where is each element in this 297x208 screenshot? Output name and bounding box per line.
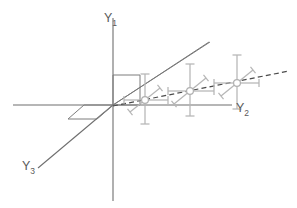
depth-parallelogram bbox=[68, 105, 113, 119]
reference-shapes-group bbox=[68, 75, 140, 119]
rays-group bbox=[113, 42, 210, 105]
figure-canvas: Y1Y2Y3 bbox=[0, 0, 297, 208]
axis-label-y1: Y1 bbox=[104, 11, 117, 28]
axis-label-y2: Y2 bbox=[236, 101, 249, 118]
axis-label-subscript-y2: 2 bbox=[244, 108, 249, 118]
data-point-cluster bbox=[124, 74, 168, 124]
data-point-cluster bbox=[168, 64, 214, 116]
data-point-marker[interactable] bbox=[142, 97, 149, 104]
data-point-marker[interactable] bbox=[234, 80, 241, 87]
axis-label-subscript-y1: 1 bbox=[112, 18, 117, 28]
axis-labels-group: Y1Y2Y3 bbox=[22, 11, 249, 176]
trend-line-group bbox=[113, 71, 289, 106]
upper-depth-ray bbox=[113, 42, 210, 105]
dashed-trend-line bbox=[113, 71, 289, 106]
axes-group bbox=[13, 18, 232, 201]
data-point-marker[interactable] bbox=[187, 88, 194, 95]
axis-label-y3: Y3 bbox=[22, 159, 35, 176]
diagram-svg: Y1Y2Y3 bbox=[0, 0, 297, 208]
axis-label-subscript-y3: 3 bbox=[30, 166, 35, 176]
